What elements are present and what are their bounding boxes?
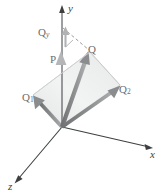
- vector-label-Qy: Qy: [38, 27, 49, 39]
- vector-arrow-Qy: [62, 27, 73, 48]
- axis-label-y: y: [68, 3, 73, 14]
- vector-label-Qy-base: Q: [38, 26, 46, 38]
- axis-label-x: x: [150, 149, 155, 160]
- vector-label-Q1-sub: 1: [30, 95, 34, 104]
- z-axis: [15, 127, 63, 184]
- vector-label-P: P: [50, 54, 56, 65]
- vector-label-Qy-sub: y: [46, 30, 49, 39]
- vector-diagram-figure: y x z Qy Q P Q1 Q2: [0, 0, 165, 195]
- x-axis: [62, 127, 153, 150]
- vector-label-Q2: Q2: [119, 84, 131, 96]
- axis-label-z: z: [8, 181, 12, 192]
- vector-label-Q2-base: Q: [119, 83, 127, 95]
- vector-label-Q: Q: [88, 44, 96, 55]
- vector-label-Q2-sub: 2: [127, 87, 131, 96]
- vector-label-Q1: Q1: [22, 92, 34, 104]
- vector-label-Q1-base: Q: [22, 91, 30, 103]
